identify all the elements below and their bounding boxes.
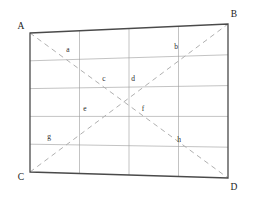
corner-label-A: A xyxy=(18,21,25,31)
perspective-grid-diagram: abcdefgh ABCD xyxy=(0,0,254,197)
point-label-a: a xyxy=(66,45,70,54)
corner-label-D: D xyxy=(231,182,238,192)
point-label-g: g xyxy=(47,132,51,141)
corner-labels: ABCD xyxy=(18,9,238,192)
point-label-c: c xyxy=(102,74,106,83)
point-label-b: b xyxy=(174,42,178,51)
point-label-h: h xyxy=(177,135,181,144)
figure-canvas: abcdefgh ABCD xyxy=(0,0,254,197)
point-label-d: d xyxy=(131,74,135,83)
point-label-f: f xyxy=(142,104,145,113)
grid-lines-group xyxy=(30,26,228,176)
corner-label-C: C xyxy=(18,172,24,182)
point-label-e: e xyxy=(83,104,87,113)
corner-label-B: B xyxy=(231,9,237,19)
